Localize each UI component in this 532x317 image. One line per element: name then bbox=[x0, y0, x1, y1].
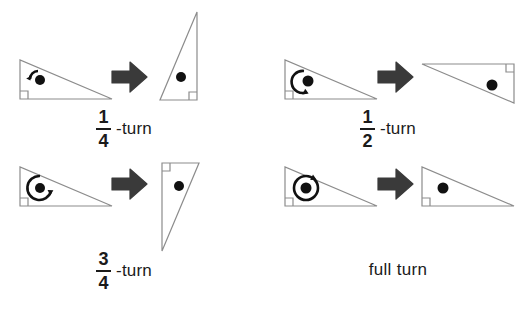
label-half-turn: 1 2 -turn bbox=[328, 108, 448, 150]
fraction-numerator: 1 bbox=[97, 108, 111, 127]
source-triangle-half bbox=[283, 58, 383, 104]
orientation-dot bbox=[487, 80, 498, 91]
orientation-dot bbox=[35, 183, 45, 193]
fraction-denominator: 2 bbox=[361, 131, 375, 150]
panel-three-quarter-turn: 3 4 -turn bbox=[0, 158, 266, 317]
orientation-dot bbox=[176, 72, 186, 82]
fraction-bar bbox=[96, 270, 111, 272]
turn-suffix: -turn bbox=[116, 119, 152, 139]
orientation-dot bbox=[303, 76, 314, 87]
full-turn-text: full turn bbox=[369, 260, 427, 280]
source-triangle-full bbox=[283, 165, 383, 211]
label-three-quarter-turn: 3 4 -turn bbox=[64, 250, 184, 292]
orientation-dot bbox=[174, 181, 184, 191]
orientation-dot bbox=[35, 75, 45, 85]
transition-arrow-three-quarter bbox=[112, 168, 148, 200]
panel-half-turn: 1 2 -turn bbox=[266, 0, 532, 158]
fraction-quarter: 1 4 bbox=[96, 108, 111, 150]
fraction-three-quarter: 3 4 bbox=[96, 250, 111, 292]
result-triangle-quarter bbox=[158, 10, 206, 104]
result-triangle-full bbox=[420, 165, 520, 211]
panel-quarter-turn: 1 4 -turn bbox=[0, 0, 266, 158]
fraction-numerator: 1 bbox=[361, 108, 375, 127]
orientation-dot bbox=[438, 183, 449, 194]
panel-full-turn: full turn bbox=[266, 158, 532, 317]
fraction-denominator: 4 bbox=[97, 131, 111, 150]
result-triangle-half bbox=[420, 60, 520, 106]
source-triangle-quarter bbox=[18, 58, 118, 104]
fraction-numerator: 3 bbox=[97, 250, 111, 269]
transition-arrow-quarter bbox=[112, 61, 148, 93]
result-triangle-three-quarter bbox=[158, 159, 206, 259]
transition-arrow-half bbox=[378, 61, 414, 93]
source-triangle-three-quarter bbox=[18, 165, 118, 211]
turn-suffix: -turn bbox=[380, 119, 416, 139]
turns-figure: 1 4 -turn 1 bbox=[0, 0, 532, 317]
fraction-bar bbox=[96, 128, 111, 130]
turn-suffix: -turn bbox=[116, 261, 152, 281]
orientation-dot bbox=[301, 183, 312, 194]
transition-arrow-full bbox=[378, 168, 414, 200]
fraction-denominator: 4 bbox=[97, 273, 111, 292]
label-full-turn: full turn bbox=[318, 255, 478, 285]
fraction-bar bbox=[360, 128, 375, 130]
fraction-half: 1 2 bbox=[360, 108, 375, 150]
label-quarter-turn: 1 4 -turn bbox=[64, 108, 184, 150]
